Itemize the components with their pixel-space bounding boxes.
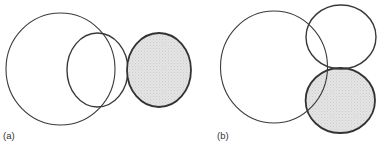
panel-a-medium-circle <box>67 33 128 107</box>
venn-diagram: (a) (b) <box>0 0 387 149</box>
panel-b-label: (b) <box>217 130 229 141</box>
panel-b-upper-circle <box>306 5 376 69</box>
panel-a: (a) <box>3 13 191 141</box>
panel-b-shaded-circle <box>306 68 375 133</box>
panel-a-label: (a) <box>3 130 15 141</box>
panel-b-large-circle <box>221 11 328 123</box>
panel-a-shaded-circle <box>127 33 191 107</box>
panel-b: (b) <box>217 5 376 141</box>
panel-a-large-circle <box>6 13 115 125</box>
